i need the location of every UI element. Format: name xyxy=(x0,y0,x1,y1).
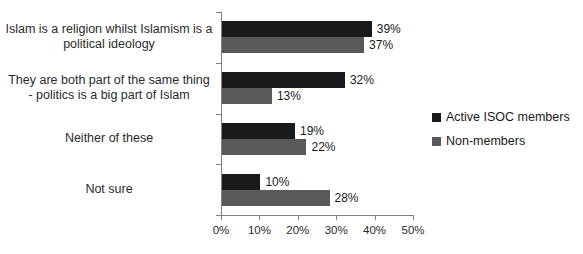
category-label-line: political ideology xyxy=(3,37,215,52)
legend-item[interactable]: Non-members xyxy=(432,134,570,148)
category-label: They are both part of the same thing- po… xyxy=(3,73,215,103)
bar-group: 39%37% xyxy=(222,21,414,53)
x-axis-tick-label: 30% xyxy=(325,224,348,236)
bar xyxy=(222,21,372,37)
bar xyxy=(222,37,364,53)
legend-item[interactable]: Active ISOC members xyxy=(432,110,570,124)
bar xyxy=(222,123,295,139)
category-label-line: - politics is a big part of Islam xyxy=(3,88,215,103)
category-axis-labels: Islam is a religion whilst Islamism is a… xyxy=(0,12,215,215)
bar-group: 19%22% xyxy=(222,123,414,155)
x-axis-tick xyxy=(336,215,337,220)
x-axis-line xyxy=(221,215,413,216)
bar xyxy=(222,190,330,206)
bar-group: 10%28% xyxy=(222,174,414,206)
y-axis-tick xyxy=(216,12,221,13)
x-axis-tick-label: 50% xyxy=(401,224,424,236)
bar-value-label: 28% xyxy=(335,190,359,206)
bar-value-label: 22% xyxy=(311,139,335,155)
category-label: Neither of these xyxy=(3,131,215,146)
y-axis-tick xyxy=(216,63,221,64)
bar-chart: Islam is a religion whilst Islamism is a… xyxy=(0,0,583,254)
chart-legend: Active ISOC membersNon-members xyxy=(432,110,570,158)
y-axis-tick xyxy=(216,215,221,216)
x-axis-tick xyxy=(259,215,260,220)
x-axis-tick-label: 20% xyxy=(286,224,309,236)
x-axis-tick xyxy=(375,215,376,220)
bar xyxy=(222,72,345,88)
bar xyxy=(222,88,272,104)
bar-group: 32%13% xyxy=(222,72,414,104)
x-axis-tick-label: 0% xyxy=(213,224,230,236)
bar-value-label: 39% xyxy=(377,21,401,37)
bar-value-label: 37% xyxy=(369,37,393,53)
bar xyxy=(222,174,260,190)
x-axis-tick-label: 10% xyxy=(248,224,271,236)
x-axis-tick-label: 40% xyxy=(363,224,386,236)
category-label: Not sure xyxy=(3,182,215,197)
x-axis-tick xyxy=(413,215,414,220)
y-axis-tick xyxy=(216,164,221,165)
plot-area: 0%10%20%30%40%50%39%37%32%13%19%22%10%28… xyxy=(221,12,413,215)
bar xyxy=(222,139,306,155)
category-label-line: Not sure xyxy=(3,182,215,197)
category-label: Islam is a religion whilst Islamism is a… xyxy=(3,22,215,52)
category-label-line: Islam is a religion whilst Islamism is a xyxy=(3,22,215,37)
bar-value-label: 32% xyxy=(350,72,374,88)
legend-swatch-icon xyxy=(432,137,441,146)
bar-value-label: 13% xyxy=(277,88,301,104)
y-axis-tick xyxy=(216,114,221,115)
x-axis-tick xyxy=(221,215,222,220)
bar-value-label: 19% xyxy=(300,123,324,139)
x-axis-tick xyxy=(298,215,299,220)
legend-label: Active ISOC members xyxy=(446,110,570,124)
category-label-line: They are both part of the same thing xyxy=(3,73,215,88)
legend-swatch-icon xyxy=(432,113,441,122)
category-label-line: Neither of these xyxy=(3,131,215,146)
legend-label: Non-members xyxy=(446,134,525,148)
bar-value-label: 10% xyxy=(265,174,289,190)
